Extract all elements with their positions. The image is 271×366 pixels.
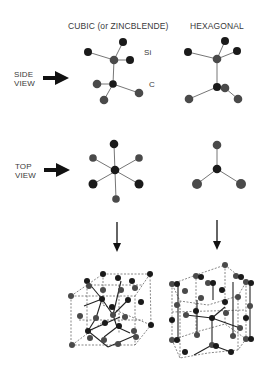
side-view-arrow-icon bbox=[43, 71, 69, 85]
hexagonal-top-atoms bbox=[192, 141, 246, 189]
cubic-side-view bbox=[88, 42, 139, 100]
cubic-unit-cell bbox=[68, 271, 154, 348]
hexagonal-down-arrow-icon bbox=[213, 220, 221, 250]
hexagonal-unit-cell bbox=[169, 262, 254, 358]
hexagonal-side-atoms bbox=[184, 37, 242, 103]
hexagonal-top-view bbox=[197, 145, 241, 184]
top-view-arrow-icon bbox=[44, 163, 70, 177]
polytype-diagram bbox=[0, 0, 271, 366]
hexagonal-side-view bbox=[188, 41, 238, 99]
cubic-down-arrow-icon bbox=[113, 222, 121, 252]
